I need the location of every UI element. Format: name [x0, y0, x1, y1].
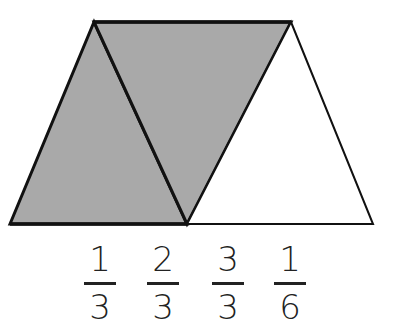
denominator: 3 — [208, 288, 248, 326]
numerator: 2 — [143, 240, 183, 278]
numerator: 1 — [270, 240, 310, 278]
trapezoid-diagram — [0, 0, 395, 235]
fraction-choice-4[interactable]: 1 6 — [270, 240, 310, 326]
numerator: 3 — [208, 240, 248, 278]
fraction-choice-1[interactable]: 1 3 — [80, 240, 120, 326]
fraction-bar — [274, 282, 306, 285]
fraction-bar — [147, 282, 179, 285]
denominator: 3 — [143, 288, 183, 326]
numerator: 1 — [80, 240, 120, 278]
fraction-choice-2[interactable]: 2 3 — [143, 240, 183, 326]
fraction-bar — [212, 282, 244, 285]
fraction-bar — [84, 282, 116, 285]
fraction-choice-3[interactable]: 3 3 — [208, 240, 248, 326]
denominator: 3 — [80, 288, 120, 326]
denominator: 6 — [270, 288, 310, 326]
